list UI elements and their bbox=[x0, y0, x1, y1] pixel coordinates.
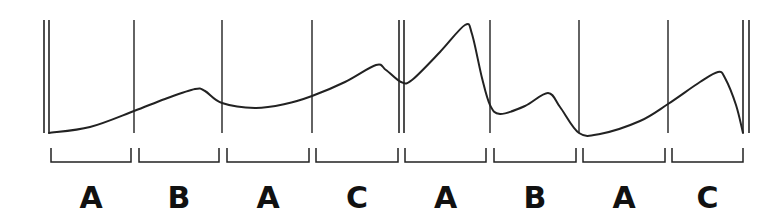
phrase-structure-diagram: ABACABAC bbox=[0, 0, 781, 223]
segment-bracket bbox=[583, 148, 665, 162]
segment-labels: ABACABAC bbox=[79, 180, 718, 215]
section-boundary-lines bbox=[44, 20, 749, 133]
segment-bracket bbox=[316, 148, 398, 162]
segment-brackets bbox=[51, 148, 743, 162]
segment-label: A bbox=[256, 180, 280, 215]
segment-bracket bbox=[672, 148, 743, 162]
segment-label: C bbox=[346, 180, 368, 215]
segment-bracket bbox=[227, 148, 309, 162]
segment-label: A bbox=[79, 180, 103, 215]
segment-label: C bbox=[696, 180, 718, 215]
segment-bracket bbox=[405, 148, 486, 162]
segment-bracket bbox=[494, 148, 576, 162]
segment-bracket bbox=[139, 148, 219, 162]
segment-label: A bbox=[434, 180, 458, 215]
segment-label: A bbox=[612, 180, 636, 215]
segment-label: B bbox=[168, 180, 191, 215]
intensity-curve bbox=[49, 24, 743, 136]
segment-label: B bbox=[524, 180, 547, 215]
segment-bracket bbox=[51, 148, 131, 162]
